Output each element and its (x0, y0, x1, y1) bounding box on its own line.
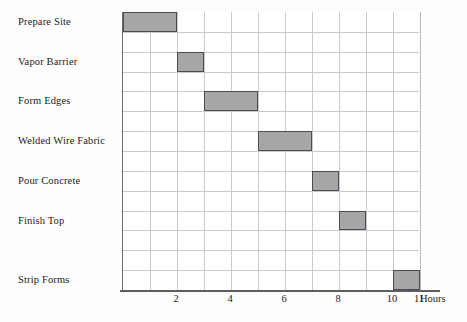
x-axis-tick-label: 11 (414, 293, 424, 304)
x-axis-tick-label: 10 (387, 293, 398, 304)
gantt-bar (339, 211, 366, 231)
horizontal-gridline (123, 191, 419, 192)
gantt-plot-area (122, 12, 419, 290)
x-axis-tick-label: 4 (227, 293, 232, 304)
horizontal-gridline (123, 250, 419, 251)
horizontal-gridline (123, 91, 419, 92)
horizontal-gridline (123, 111, 419, 112)
gantt-bar (393, 270, 420, 290)
x-axis-tick-label: 6 (281, 293, 286, 304)
x-axis-tick-labels: Hours 24681011 (0, 293, 467, 313)
vertical-gridline (420, 12, 421, 290)
task-label-column: Prepare SiteVapor BarrierForm EdgesWelde… (0, 12, 118, 290)
horizontal-gridline (123, 171, 419, 172)
task-label: Strip Forms (18, 274, 122, 285)
task-label: Prepare Site (18, 16, 122, 27)
gantt-bar (312, 171, 339, 191)
horizontal-gridline (123, 72, 419, 73)
x-axis-tick-label: 8 (335, 293, 340, 304)
horizontal-gridline (123, 32, 419, 33)
task-label: Vapor Barrier (18, 56, 122, 67)
gantt-bar (123, 12, 177, 32)
gantt-bar (258, 131, 312, 151)
x-axis-tick-label: 2 (173, 293, 178, 304)
gantt-bar (177, 52, 204, 72)
horizontal-gridline (123, 211, 419, 212)
gantt-bar (204, 91, 258, 111)
task-label: Form Edges (18, 95, 122, 106)
gantt-chart-figure: Prepare SiteVapor BarrierForm EdgesWelde… (0, 0, 467, 322)
task-label: Welded Wire Fabric (18, 135, 122, 146)
horizontal-gridline (123, 270, 419, 271)
task-label: Pour Concrete (18, 175, 122, 186)
task-label: Finish Top (18, 215, 122, 226)
horizontal-gridline (123, 151, 419, 152)
x-axis-line (120, 290, 440, 292)
horizontal-gridline (123, 230, 419, 231)
horizontal-gridline (123, 52, 419, 53)
